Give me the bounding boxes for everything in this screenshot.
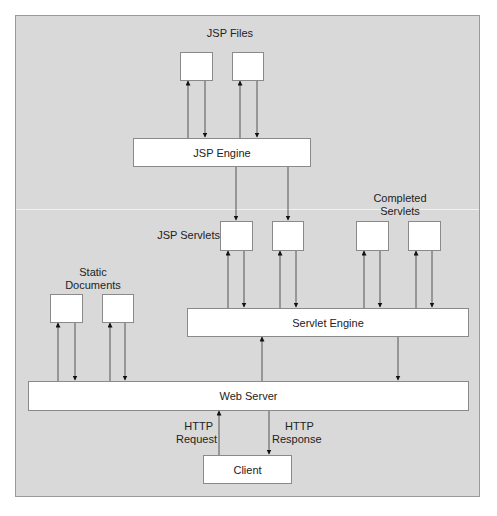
- client-label: Client: [233, 464, 261, 476]
- static-documents-label: Static Documents: [60, 266, 126, 292]
- static-documents-line1: Static: [60, 266, 126, 279]
- completed-servlets-line2: Servlets: [365, 205, 435, 218]
- jsp-files-label: JSP Files: [200, 27, 260, 40]
- servlet-engine-box: Servlet Engine: [187, 308, 469, 337]
- http-response-label: HTTP Response: [272, 420, 322, 446]
- completed-servlets-label: Completed Servlets: [365, 192, 435, 218]
- static-documents-line2: Documents: [60, 279, 126, 292]
- client-box: Client: [203, 455, 292, 484]
- servlet-engine-label: Servlet Engine: [292, 317, 364, 329]
- http-request-line1: HTTP: [176, 420, 216, 433]
- jsp-servlets-label: JSP Servlets: [156, 229, 220, 242]
- completed-servlet-box-1: [356, 221, 389, 251]
- jsp-servlet-box-1: [220, 221, 253, 251]
- http-request-line2: Request: [176, 433, 216, 446]
- static-document-box-1: [50, 294, 83, 323]
- completed-servlets-line1: Completed: [365, 192, 435, 205]
- web-server-box: Web Server: [28, 381, 469, 411]
- completed-servlet-box-2: [408, 221, 441, 251]
- http-response-line1: HTTP: [272, 420, 322, 433]
- web-server-label: Web Server: [220, 390, 278, 402]
- http-request-label: HTTP Request: [176, 420, 216, 446]
- static-document-box-2: [102, 294, 134, 323]
- jsp-file-box-1: [180, 52, 213, 81]
- jsp-engine-label: JSP Engine: [193, 147, 250, 159]
- http-response-line2: Response: [272, 433, 322, 446]
- jsp-file-box-2: [232, 52, 264, 81]
- jsp-engine-box: JSP Engine: [133, 138, 311, 167]
- jsp-servlet-box-2: [272, 221, 304, 251]
